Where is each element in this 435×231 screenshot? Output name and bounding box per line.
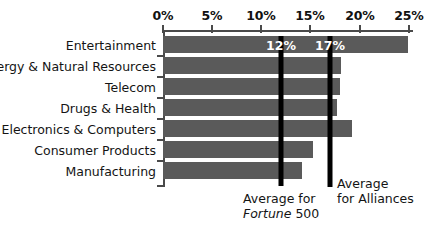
annotation-fortune-500-italic: Fortune [243,206,291,221]
bar-energy-natural-resources [163,57,341,74]
reference-line-alliances [328,36,333,187]
y-axis-tick [157,160,163,162]
y-axis-tick [157,55,163,57]
bar-electronics-computers [163,120,352,137]
y-axis-tick [157,118,163,120]
x-tick-label-2: 10% [246,8,275,23]
y-axis-tick [157,97,163,99]
bar-category-label: Consumer Products [34,142,156,157]
annotation-fortune-500-line2: Fortune 500 [243,207,319,222]
x-axis-line [163,30,413,32]
reference-line-fortune-500-value: 12% [266,38,296,53]
bar-category-label: Entertainment [66,37,156,52]
annotation-alliances-line2: for Alliances [337,192,414,207]
x-axis-tick-20 [359,25,361,33]
y-axis-tick [157,139,163,141]
bar-category-label: Energy & Natural Resources [0,58,156,73]
annotation-fortune-500-number: 500 [291,206,319,221]
annotation-fortune-500: Average for Fortune 500 [243,192,319,222]
bar-category-label: Manufacturing [65,163,156,178]
bar-drugs-health [163,99,337,116]
reference-line-alliances-value: 17% [315,38,345,53]
reference-line-fortune-500 [279,36,284,186]
x-axis-tick-labels: 0% 5% 10% 15% 20% 25% [0,8,435,24]
x-tick-label-3: 15% [295,8,324,23]
y-axis-tick [157,76,163,78]
annotation-alliances-line1: Average [337,177,414,192]
x-tick-label-0: 0% [153,8,174,23]
bar-chart: 0% 5% 10% 15% 20% 25% Entertainment Ener… [0,0,435,231]
annotation-fortune-500-line1: Average for [243,192,319,207]
bar-telecom [163,78,340,95]
plot-area: Entertainment Energy & Natural Resources… [163,36,413,186]
x-tick-label-4: 20% [345,8,374,23]
x-axis-tick-5 [211,25,213,33]
bar-category-label: Drugs & Health [60,100,156,115]
x-axis-tick-15 [309,25,311,33]
annotation-alliances: Average for Alliances [337,177,414,207]
x-axis-tick-10 [260,25,262,33]
bar-category-label: Telecom [105,79,156,94]
x-axis-tick-25 [408,25,410,33]
x-tick-label-5: 25% [394,8,423,23]
y-axis-tick [157,185,163,187]
bar-consumer-products [163,141,313,158]
x-tick-label-1: 5% [202,8,223,23]
bar-category-label: Electronics & Computers [2,121,156,136]
